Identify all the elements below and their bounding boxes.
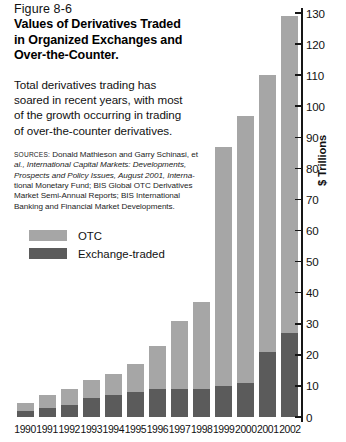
chart-plot-area <box>14 13 301 417</box>
y-axis-tick-label: 50 <box>306 256 319 267</box>
y-axis-tick <box>295 354 302 356</box>
bar-segment-exchange-traded <box>259 352 276 417</box>
bar-segment-otc <box>61 389 78 405</box>
bar-segment-exchange-traded <box>237 383 254 417</box>
bar-segment-exchange-traded <box>39 408 56 417</box>
bar-segment-exchange-traded <box>193 389 210 417</box>
y-axis-tick-label: 0 <box>306 412 312 423</box>
bar-segment-exchange-traded <box>127 392 144 417</box>
bar-column <box>171 321 188 417</box>
bar-column <box>215 147 232 417</box>
y-axis-tick-label: 100 <box>306 101 325 112</box>
bar-column <box>61 389 78 417</box>
y-axis-tick-label: 60 <box>306 225 319 236</box>
bar-segment-exchange-traded <box>105 395 122 417</box>
bar-segment-otc <box>17 403 34 411</box>
bar-column <box>105 374 122 418</box>
y-axis-tick-label: 20 <box>306 349 319 360</box>
y-axis-title: $ Trillions <box>316 135 328 186</box>
y-axis-tick <box>295 292 302 294</box>
y-axis-tick <box>295 199 302 201</box>
bar-segment-otc <box>193 302 210 389</box>
bar-segment-otc <box>281 16 298 333</box>
y-axis-tick <box>295 168 302 170</box>
bar-segment-exchange-traded <box>61 405 78 417</box>
bar-segment-exchange-traded <box>171 389 188 417</box>
bar-column <box>83 380 100 417</box>
bar-column <box>281 16 298 417</box>
bar-segment-otc <box>83 380 100 399</box>
bar-chart: 0102030405060708090100110120130 $ Trilli… <box>0 0 346 442</box>
bar-segment-otc <box>149 346 166 390</box>
bar-segment-exchange-traded <box>215 386 232 417</box>
y-axis-tick <box>295 261 302 263</box>
y-axis-tick <box>295 43 302 45</box>
bar-segment-otc <box>105 374 122 396</box>
bar-column <box>39 395 56 417</box>
y-axis-tick <box>295 385 302 387</box>
bar-segment-otc <box>39 395 56 407</box>
bar-segment-otc <box>237 116 254 383</box>
x-axis-labels: 1990199119921993199419951996199719981999… <box>14 424 301 440</box>
bar-segment-otc <box>171 321 188 389</box>
x-axis-tick-label: 2002 <box>277 424 303 436</box>
y-axis-tick <box>295 416 302 418</box>
bar-column <box>237 116 254 417</box>
bar-segment-exchange-traded <box>83 398 100 417</box>
y-axis-tick-label: 10 <box>306 380 319 391</box>
y-axis-tick <box>295 74 302 76</box>
bar-segment-exchange-traded <box>149 389 166 417</box>
bar-segment-exchange-traded <box>281 333 298 417</box>
y-axis-tick-label: 40 <box>306 287 319 298</box>
bar-segment-exchange-traded <box>17 411 34 417</box>
y-axis-tick-label: 130 <box>306 8 325 19</box>
y-axis-line <box>301 8 303 422</box>
bar-segment-otc <box>127 364 144 392</box>
bar-column <box>149 346 166 417</box>
bar-segment-otc <box>259 75 276 352</box>
bar-column <box>259 75 276 417</box>
bar-column <box>127 364 144 417</box>
y-axis-tick <box>295 230 302 232</box>
bar-segment-otc <box>215 147 232 386</box>
bar-column <box>193 302 210 417</box>
y-axis-tick <box>295 105 302 107</box>
bar-column <box>17 403 34 417</box>
y-axis-tick <box>295 137 302 139</box>
y-axis-tick-label: 110 <box>306 70 324 81</box>
y-axis-tick-label: 30 <box>306 318 319 329</box>
y-axis-tick <box>295 323 302 325</box>
y-axis-tick-label: 120 <box>306 39 325 50</box>
y-axis-tick-label: 70 <box>306 194 319 205</box>
y-axis-tick <box>295 12 302 14</box>
